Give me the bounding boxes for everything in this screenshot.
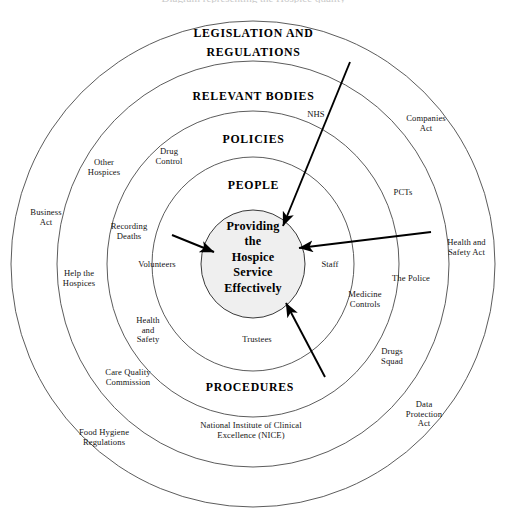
- ring-outline-core: [201, 210, 305, 318]
- diagram-canvas: [0, 0, 507, 520]
- arrow-from-bottom-right: [286, 303, 325, 377]
- arrow-from-right: [299, 232, 431, 248]
- concentric-ring-diagram: Diagram representing the Hospice quality…: [0, 0, 507, 520]
- arrow-from-top-right: [283, 62, 350, 226]
